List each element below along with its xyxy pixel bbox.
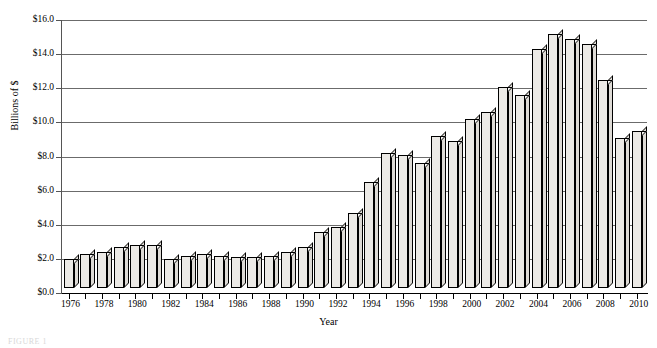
x-tick-label: 1996 — [395, 300, 414, 310]
y-tick-label: $2.0 — [37, 254, 54, 264]
bar — [64, 259, 74, 293]
y-tick-mark — [56, 54, 62, 55]
bar — [364, 182, 374, 293]
x-tick-label: 2000 — [462, 300, 481, 310]
bar-series — [62, 20, 647, 293]
x-tick-mark — [85, 294, 86, 299]
y-tick-label: $10.0 — [33, 118, 54, 128]
bar-side — [391, 148, 396, 288]
y-axis-title: Billions of $ — [9, 46, 20, 166]
figure-caption: FIGURE 1 — [8, 337, 47, 346]
x-tick-mark — [386, 294, 387, 299]
bar-side — [608, 75, 613, 288]
bar — [281, 252, 291, 293]
bar-face — [565, 39, 575, 288]
bar — [582, 44, 592, 293]
bar-face — [114, 247, 124, 288]
x-tick-label: 2006 — [562, 300, 581, 310]
bar-face — [331, 227, 341, 288]
x-tick-mark — [219, 294, 220, 299]
x-tick-mark — [319, 294, 320, 299]
bar — [498, 87, 508, 293]
bar-face — [398, 155, 408, 288]
x-tick-label: 1982 — [161, 300, 180, 310]
bar-face — [130, 245, 140, 288]
x-tick-mark — [152, 294, 153, 299]
bar-side — [408, 150, 413, 288]
bar — [181, 256, 191, 293]
x-tick-label: 1994 — [362, 300, 381, 310]
x-tick-mark — [587, 294, 588, 299]
x-tick-mark — [186, 294, 187, 299]
bar — [381, 153, 391, 293]
bar — [415, 163, 425, 293]
x-tick-label: 2004 — [529, 300, 548, 310]
x-tick-label: 1990 — [295, 300, 314, 310]
bar-face — [481, 112, 491, 288]
y-tick-label: $16.0 — [33, 15, 54, 25]
x-tick-mark — [553, 294, 554, 299]
bar-face — [164, 259, 174, 288]
x-axis: 1976197819801982198419861988199019921994… — [62, 293, 648, 294]
bar-side — [558, 29, 563, 288]
bar-face — [415, 163, 425, 288]
bar — [331, 227, 341, 293]
bar-face — [181, 256, 191, 288]
bar-face — [348, 213, 358, 288]
bar-side — [592, 39, 597, 288]
bar-face — [214, 256, 224, 288]
bar-face — [498, 87, 508, 288]
bar — [348, 213, 358, 293]
x-tick-label: 1984 — [195, 300, 214, 310]
x-tick-mark — [252, 294, 253, 299]
bar-face — [64, 259, 74, 288]
x-tick-label: 2002 — [496, 300, 515, 310]
bar — [314, 232, 324, 293]
bar-face — [381, 153, 391, 288]
bar-face — [364, 182, 374, 288]
bar-face — [532, 49, 542, 288]
y-axis: $0.0$2.0$4.0$6.0$8.0$10.0$12.0$14.0$16.0 — [61, 20, 62, 293]
bar-face — [197, 254, 207, 288]
y-tick-mark — [56, 88, 62, 89]
y-tick-mark — [56, 20, 62, 21]
bar-side — [475, 114, 480, 288]
x-tick-mark — [119, 294, 120, 299]
bar — [548, 34, 558, 293]
x-tick-mark — [286, 294, 287, 299]
bar — [298, 247, 308, 293]
x-tick-label: 1980 — [128, 300, 147, 310]
x-tick-label: 1976 — [61, 300, 80, 310]
bar-side — [642, 126, 647, 288]
bar-face — [632, 131, 642, 288]
bar — [130, 245, 140, 293]
x-tick-label: 2010 — [629, 300, 648, 310]
y-tick-label: $12.0 — [33, 84, 54, 94]
bar-face — [298, 247, 308, 288]
bar — [565, 39, 575, 293]
y-tick-mark — [56, 259, 62, 260]
bar — [264, 256, 274, 293]
x-tick-mark — [620, 294, 621, 299]
x-tick-mark — [420, 294, 421, 299]
bar-face — [465, 119, 475, 288]
x-tick-label: 1978 — [94, 300, 113, 310]
bar — [80, 254, 90, 293]
bar-side — [625, 133, 630, 288]
bar — [515, 95, 525, 293]
y-tick-mark — [56, 225, 62, 226]
y-tick-label: $6.0 — [37, 186, 54, 196]
bar-face — [515, 95, 525, 288]
x-tick-mark — [353, 294, 354, 299]
bar — [97, 252, 107, 293]
bar-side — [575, 34, 580, 288]
bar-side — [341, 222, 346, 288]
bar — [197, 254, 207, 293]
bar-face — [147, 245, 157, 288]
bar — [465, 119, 475, 293]
bar — [448, 141, 458, 293]
y-tick-mark — [56, 191, 62, 192]
x-tick-mark — [520, 294, 521, 299]
bar-face — [97, 252, 107, 288]
bar — [431, 136, 441, 293]
